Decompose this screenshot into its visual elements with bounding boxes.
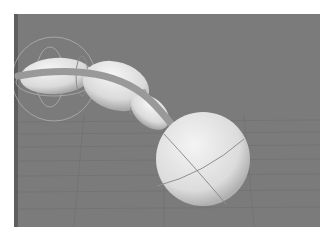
sphere[interactable] bbox=[156, 112, 250, 206]
3d-viewport[interactable] bbox=[14, 14, 320, 227]
scene-canvas[interactable] bbox=[14, 14, 320, 227]
